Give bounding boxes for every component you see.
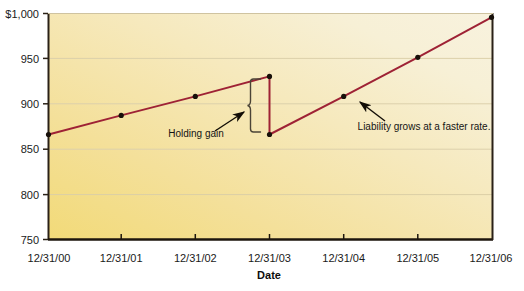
holding-gain-label: Holding gain [168,128,224,139]
x-tick-label-4: 12/31/04 [322,252,365,264]
y-tick-label-850: 850 [21,143,39,155]
data-point-marker [267,74,272,79]
data-point-marker [415,55,420,60]
data-point-marker [46,132,51,137]
chart-container: $1,000 950 900 850 800 750 12/31/00 12/3… [0,0,524,291]
y-tick-label-950: 950 [21,53,39,65]
x-tick-label-2: 12/31/02 [174,252,217,264]
liability-growth-label: Liability grows at a faster rate. [358,121,491,132]
y-tick-label-900: 900 [21,98,39,110]
x-tick-label-5: 12/31/05 [396,252,439,264]
y-tick-label-1000: $1,000 [5,8,39,20]
data-point-marker [119,113,124,118]
x-tick-label-6: 12/31/06 [470,252,513,264]
x-tick-label-3: 12/31/03 [248,252,291,264]
data-point-marker [489,15,494,20]
data-point-marker [341,94,346,99]
x-tick-label-0: 12/31/00 [28,252,71,264]
y-axis-tick-labels: $1,000 950 900 850 800 750 [5,8,39,246]
x-axis-title: Date [257,269,281,281]
line-chart: $1,000 950 900 850 800 750 12/31/00 12/3… [0,0,524,291]
data-point-marker [267,132,272,137]
y-tick-label-800: 800 [21,189,39,201]
y-axis-ticks [43,14,48,240]
y-tick-label-750: 750 [21,234,39,246]
x-axis-tick-labels: 12/31/00 12/31/01 12/31/02 12/31/03 12/3… [28,252,513,264]
data-point-marker [193,94,198,99]
x-tick-label-1: 12/31/01 [100,252,143,264]
